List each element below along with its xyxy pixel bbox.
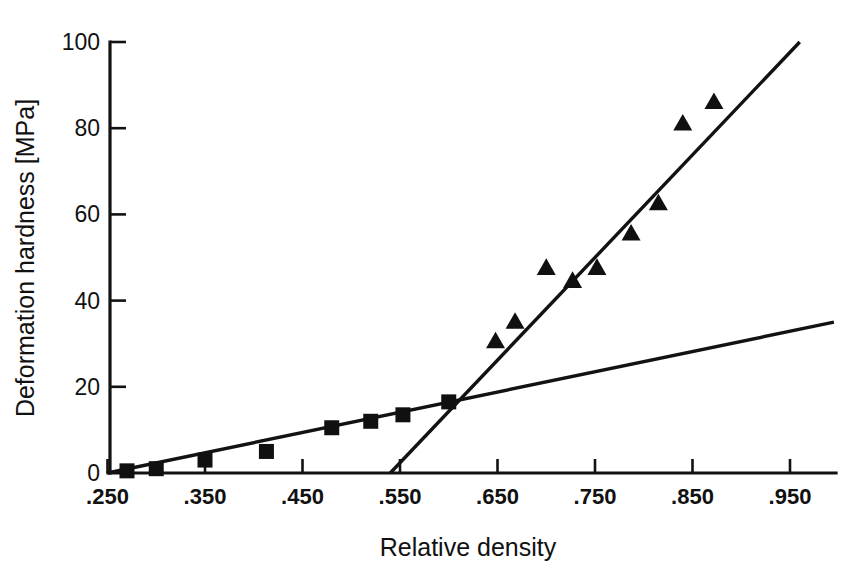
x-tick-label: .550 <box>379 484 422 509</box>
data-point-triangle <box>486 332 505 349</box>
x-tick-label-group: .250.350.450.550.650.750.850.950 <box>86 484 811 509</box>
y-tick-label: 100 <box>62 29 100 55</box>
y-tick-label-group: 020406080100 <box>62 29 100 486</box>
chart-figure: 020406080100 .250.350.450.550.650.750.85… <box>0 0 867 577</box>
data-point-triangle <box>673 114 692 131</box>
triangle-marker-group <box>486 92 723 348</box>
y-axis-title: Deformation hardness [MPa] <box>11 99 39 417</box>
x-axis-title: Relative density <box>380 533 557 561</box>
data-point-square <box>149 461 164 476</box>
data-point-square <box>198 453 213 468</box>
x-tick-label: .950 <box>769 484 812 509</box>
x-tick-label: .450 <box>281 484 324 509</box>
data-point-square <box>363 414 378 429</box>
axes-group <box>108 42 836 473</box>
x-tick-label: .750 <box>574 484 617 509</box>
y-tick-marks <box>110 42 126 387</box>
data-point-square <box>259 444 274 459</box>
chart-canvas: 020406080100 .250.350.450.550.650.750.85… <box>0 0 867 577</box>
x-tick-label: .350 <box>184 484 227 509</box>
x-tick-label: .250 <box>86 484 129 509</box>
fit-line-group <box>108 42 834 473</box>
data-point-triangle <box>704 92 723 109</box>
x-tick-label: .850 <box>671 484 714 509</box>
data-point-square <box>395 407 410 422</box>
y-tick-label: 60 <box>74 201 100 227</box>
x-tick-label: .650 <box>476 484 519 509</box>
data-point-square <box>120 463 135 478</box>
data-point-triangle <box>506 312 525 329</box>
shallow-fit-line <box>108 322 834 473</box>
y-tick-label: 0 <box>87 460 100 486</box>
data-point-square <box>324 420 339 435</box>
data-point-square <box>441 394 456 409</box>
y-tick-label: 20 <box>74 374 100 400</box>
data-point-triangle <box>537 258 556 275</box>
y-tick-label: 80 <box>74 115 100 141</box>
y-tick-label: 40 <box>74 288 100 314</box>
